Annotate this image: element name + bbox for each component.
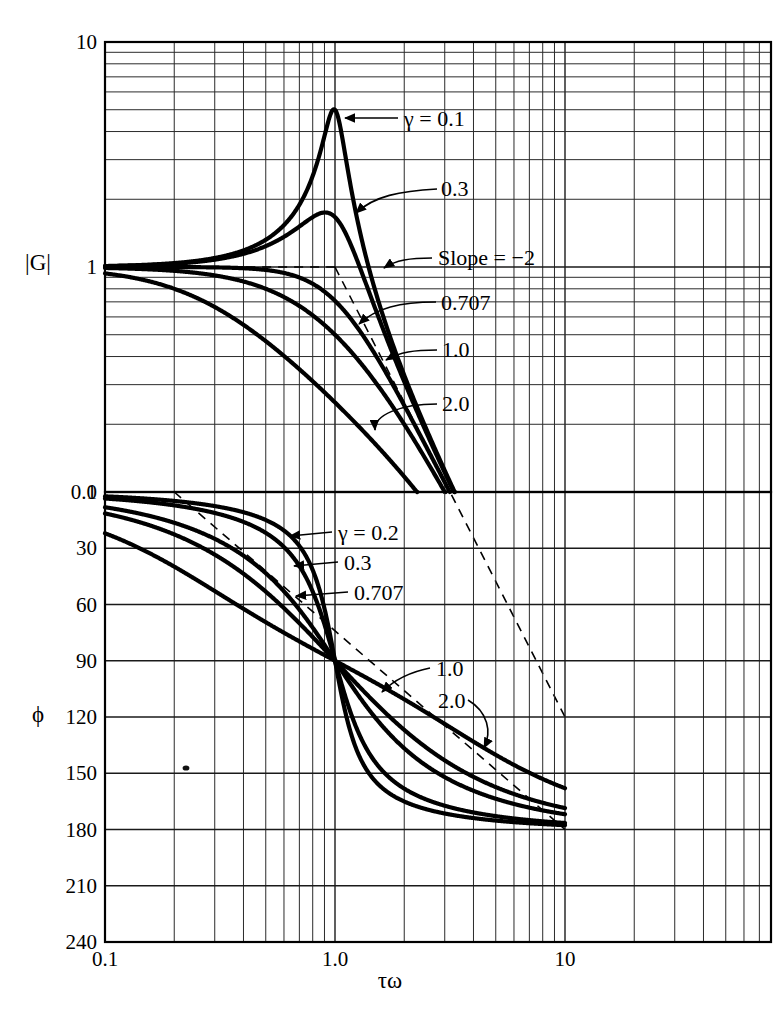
magnitude-tick-1: 1 bbox=[87, 255, 98, 279]
magnitude-curve-gamma-0-707 bbox=[105, 267, 450, 492]
magnitude-curve-gamma-2 bbox=[105, 273, 417, 492]
label-phase-gamma-0-2: γ = 0.2 bbox=[337, 520, 399, 545]
magnitude-panel: 1010.1 bbox=[71, 30, 771, 717]
x-tick-10: 10 bbox=[555, 947, 576, 971]
phase-tick-90: 90 bbox=[76, 649, 97, 673]
print-speck bbox=[183, 765, 190, 770]
phase-tick-210: 210 bbox=[66, 874, 98, 898]
x-axis-title: τω bbox=[378, 968, 402, 993]
leader-gamma-0-3 bbox=[356, 189, 437, 213]
magnitude-tick-10: 10 bbox=[76, 30, 97, 54]
x-axis-tick-labels: 0.11.010 bbox=[92, 947, 576, 971]
label-magnitude-gamma-0-1: γ = 0.1 bbox=[403, 106, 465, 131]
label-magnitude-gamma-2-0: 2.0 bbox=[442, 391, 470, 416]
magnitude-curve-gamma-0-1 bbox=[105, 109, 455, 492]
label-magnitude-gamma-0-707: 0.707 bbox=[441, 290, 491, 315]
leader-ph-gamma-0-3 bbox=[294, 562, 338, 566]
phase-gridlines bbox=[105, 492, 771, 942]
magnitude-axis-title: |G| bbox=[25, 250, 51, 275]
phase-tick-0: 0 bbox=[87, 480, 98, 504]
label-phase-gamma-2-0: 2.0 bbox=[438, 688, 466, 713]
label-phase-gamma-0-707: 0.707 bbox=[354, 580, 404, 605]
phase-tick-labels: 0306090120150180210240 bbox=[66, 480, 98, 954]
phase-panel: 0306090120150180210240 bbox=[66, 480, 772, 954]
leader-gamma-0-707 bbox=[359, 302, 436, 324]
bode-diagram-figure: 1010.1 0306090120150180210240 0.11.010 |… bbox=[0, 0, 783, 1012]
label-magnitude-gamma-0-3: 0.3 bbox=[441, 176, 469, 201]
label-phase-gamma-1-0: 1.0 bbox=[436, 656, 464, 681]
x-tick-1-0: 1.0 bbox=[322, 947, 348, 971]
label-magnitude-gamma-1-0: 1.0 bbox=[442, 337, 470, 362]
phase-tick-150: 150 bbox=[66, 761, 98, 785]
phase-tick-30: 30 bbox=[76, 536, 97, 560]
phase-tick-180: 180 bbox=[66, 818, 98, 842]
leader-ph-gamma-0-2 bbox=[290, 532, 332, 536]
label-magnitude-slope: Slope = −2 bbox=[438, 245, 535, 270]
bode-diagram-svg: 1010.1 0306090120150180210240 0.11.010 |… bbox=[0, 0, 783, 1012]
magnitude-curves bbox=[105, 109, 455, 492]
label-phase-gamma-0-3: 0.3 bbox=[344, 550, 372, 575]
magnitude-tick-labels: 1010.1 bbox=[71, 30, 97, 504]
phase-axis-title: ϕ bbox=[32, 702, 44, 727]
x-tick-0-1: 0.1 bbox=[92, 947, 118, 971]
phase-tick-60: 60 bbox=[76, 593, 97, 617]
phase-tick-120: 120 bbox=[66, 705, 98, 729]
